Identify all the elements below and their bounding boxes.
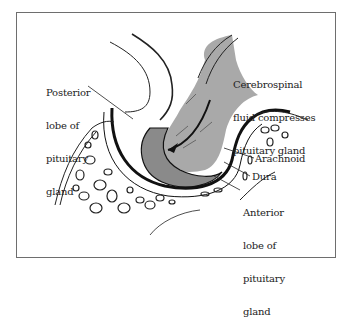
stalk-left	[110, 42, 150, 112]
label-line: gland	[46, 186, 90, 197]
stalk-right	[132, 34, 173, 120]
label-anterior-lobe: Anterior lobe of pituitary gland	[243, 185, 285, 321]
label-dura: Dura	[252, 171, 276, 182]
label-arachnoid: Arachnoid	[255, 153, 305, 164]
label-line: fluid compresses	[233, 112, 315, 123]
label-line: pituitary	[46, 153, 90, 164]
label-posterior-lobe: Posterior lobe of pituitary gland	[46, 65, 90, 208]
label-line: Cerebrospinal	[233, 79, 315, 90]
label-csf: Cerebrospinal fluid compresses pituitary…	[233, 57, 315, 167]
label-line: gland	[243, 306, 285, 317]
label-line: lobe of	[243, 240, 285, 251]
label-line: pituitary	[243, 273, 285, 284]
label-line: lobe of	[46, 120, 90, 131]
label-line: Anterior	[243, 207, 285, 218]
label-line: Posterior	[46, 87, 90, 98]
